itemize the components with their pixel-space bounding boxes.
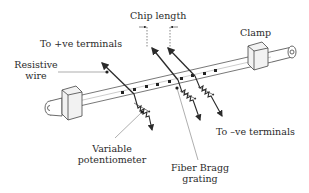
- potentiometers: [134, 76, 222, 130]
- fiber: [60, 52, 272, 110]
- fbg-heating-diagram: Chip length To +ve terminals Clamp Resis…: [0, 0, 309, 193]
- resistive-wire-label: Resistive wire: [14, 59, 58, 81]
- chip-length-label: Chip length: [130, 10, 186, 21]
- to-positive-terminals-label: To +ve terminals: [40, 38, 122, 49]
- clamp-label: Clamp: [240, 27, 271, 38]
- variable-potentiometer-label: Variable potentiometer: [74, 143, 150, 165]
- fiber-bragg-grating-label: Fiber Bragg grating: [168, 162, 232, 184]
- to-negative-terminals-label: To –ve terminals: [216, 126, 295, 137]
- left-clamp: [45, 86, 82, 120]
- chip-length-dimension: [139, 27, 178, 48]
- right-clamp: [248, 42, 296, 70]
